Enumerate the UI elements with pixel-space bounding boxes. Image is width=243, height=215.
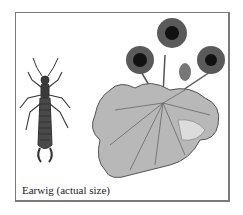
illustration: [0, 0, 243, 215]
figure-caption: Earwig (actual size): [22, 184, 110, 196]
flower-right: [197, 46, 225, 74]
flower-top: [157, 18, 187, 48]
flower-left: [126, 46, 154, 74]
earwig-illustration: [20, 58, 70, 162]
leaf-illustration: [92, 83, 218, 177]
flower-bud: [179, 63, 191, 81]
